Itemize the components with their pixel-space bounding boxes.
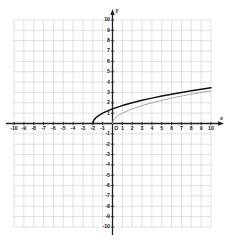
y-tick-label--1: -1 <box>105 131 110 136</box>
coordinate-plane <box>0 0 226 243</box>
x-axis-label: x <box>220 116 223 121</box>
graph-figure: -10-9-8-7-6-5-4-3-2-11234567891010987654… <box>0 0 226 243</box>
x-tick-label-7: 7 <box>180 126 183 131</box>
x-tick-label--7: -7 <box>41 126 46 131</box>
x-tick-label-8: 8 <box>190 126 193 131</box>
y-tick-label-7: 7 <box>107 48 110 53</box>
x-tick-label-3: 3 <box>141 126 144 131</box>
y-tick-label--6: -6 <box>105 183 110 188</box>
y-tick-label--9: -9 <box>105 214 110 219</box>
x-tick-label--10: -10 <box>10 126 18 131</box>
x-tick-label-1: 1 <box>121 126 124 131</box>
y-tick-label-3: 3 <box>107 90 110 95</box>
y-tick-label-8: 8 <box>107 38 110 43</box>
x-tick-label--6: -6 <box>51 126 56 131</box>
x-tick-label--4: -4 <box>71 126 76 131</box>
x-tick-label--9: -9 <box>22 126 27 131</box>
x-tick-label--3: -3 <box>81 126 86 131</box>
x-tick-label-10: 10 <box>208 126 214 131</box>
y-tick-label-5: 5 <box>107 69 110 74</box>
y-tick-label-6: 6 <box>107 59 110 64</box>
y-axis-label: y <box>116 8 119 13</box>
x-tick-label-5: 5 <box>160 126 163 131</box>
y-tick-label--3: -3 <box>105 152 110 157</box>
x-tick-label--8: -8 <box>31 126 36 131</box>
y-tick-label--8: -8 <box>105 204 110 209</box>
x-tick-label--5: -5 <box>61 126 66 131</box>
x-tick-label-9: 9 <box>200 126 203 131</box>
x-tick-label--2: -2 <box>90 126 95 131</box>
x-tick-label-6: 6 <box>170 126 173 131</box>
origin-label: O <box>114 126 118 131</box>
x-tick-label--1: -1 <box>100 126 105 131</box>
y-tick-label--4: -4 <box>105 162 110 167</box>
y-tick-label-2: 2 <box>107 100 110 105</box>
x-tick-label-4: 4 <box>150 126 153 131</box>
y-tick-label--2: -2 <box>105 142 110 147</box>
x-tick-label-2: 2 <box>131 126 134 131</box>
y-tick-label--7: -7 <box>105 193 110 198</box>
y-tick-label-10: 10 <box>104 17 110 22</box>
y-tick-label-1: 1 <box>107 111 110 116</box>
y-tick-label--5: -5 <box>105 173 110 178</box>
y-tick-label-9: 9 <box>107 28 110 33</box>
y-tick-label--10: -10 <box>103 224 111 229</box>
y-tick-label-4: 4 <box>107 80 110 85</box>
